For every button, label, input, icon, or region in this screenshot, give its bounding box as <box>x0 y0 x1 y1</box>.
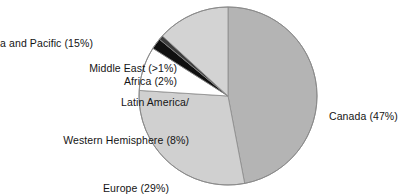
slice-label-latin-america-line2: Western Hemisphere (8%) <box>63 134 189 147</box>
slice-label-europe-text: Europe (29%) <box>103 182 169 194</box>
slice-label-canada: Canada (47%) <box>329 85 398 148</box>
pie-slice-canada <box>228 7 317 183</box>
slice-label-latin-america: Latin America/ Western Hemisphere (8%) <box>63 71 189 171</box>
slice-label-asia-pacific-text: Asia and Pacific (15%) <box>0 37 93 50</box>
slice-label-latin-america-line1: Latin America/ <box>63 96 189 109</box>
slice-label-europe: Europe (29%) <box>103 157 169 194</box>
slice-label-canada-text: Canada (47%) <box>329 110 398 123</box>
pie-chart-figure: Asia and Pacific (15%) Middle East (>1%)… <box>0 0 411 194</box>
slice-label-asia-pacific: Asia and Pacific (15%) <box>0 12 93 75</box>
